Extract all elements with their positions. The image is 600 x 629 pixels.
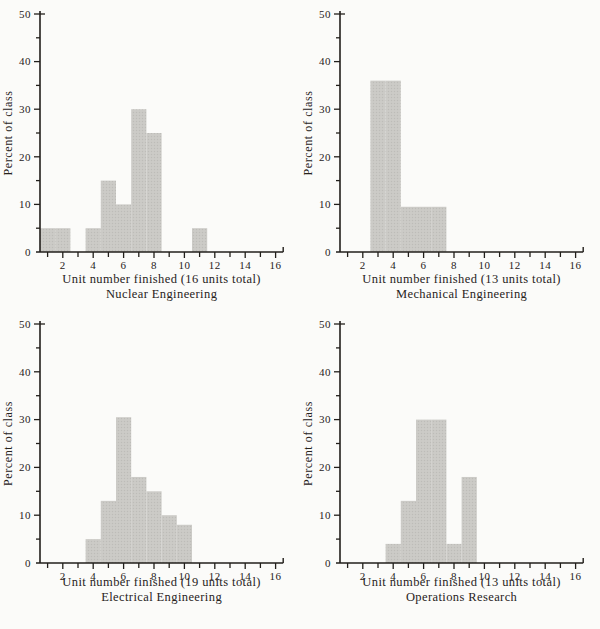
histogram-svg: 01020304050246810121416Percent of classU… — [0, 315, 300, 629]
y-tick-label: 0 — [25, 557, 31, 569]
y-tick-label: 30 — [19, 413, 31, 425]
x-tick-label: 12 — [209, 259, 221, 271]
y-tick-label: 50 — [19, 8, 31, 20]
panel-title: Mechanical Engineering — [396, 287, 528, 301]
y-tick-label: 30 — [19, 103, 31, 115]
y-tick-label: 0 — [325, 557, 331, 569]
bar-unit-6 — [416, 420, 431, 563]
y-axis-label: Percent of class — [1, 91, 15, 176]
x-tick-label: 16 — [270, 570, 282, 582]
y-tick-label: 0 — [325, 246, 331, 258]
x-tick-label: 2 — [60, 259, 66, 271]
bar-unit-6 — [416, 207, 431, 252]
bar-unit-6 — [116, 417, 131, 563]
bar-unit-7 — [131, 109, 146, 252]
y-axis-label: Percent of class — [301, 91, 315, 176]
x-tick-label: 10 — [478, 259, 490, 271]
histogram-panel-nuclear-engineering: 01020304050246810121416Percent of classU… — [0, 0, 300, 315]
x-tick-label: 14 — [539, 259, 551, 271]
x-tick-label: 6 — [121, 259, 127, 271]
x-tick-label: 8 — [151, 259, 157, 271]
y-axis-label: Percent of class — [301, 401, 315, 486]
y-tick-label: 20 — [319, 461, 331, 473]
bar-unit-4 — [386, 81, 401, 252]
panel-title: Electrical Engineering — [101, 590, 222, 604]
y-tick-label: 40 — [319, 55, 331, 67]
x-tick-label: 16 — [270, 259, 282, 271]
bar-unit-4 — [86, 228, 101, 252]
bar-unit-4 — [86, 539, 101, 563]
y-tick-label: 10 — [319, 509, 331, 521]
y-tick-label: 10 — [19, 509, 31, 521]
histogram-panel-electrical-engineering: 01020304050246810121416Percent of classU… — [0, 315, 300, 629]
x-tick-label: 8 — [451, 259, 457, 271]
y-tick-label: 10 — [319, 198, 331, 210]
bar-unit-8 — [146, 491, 161, 563]
y-axis-label: Percent of class — [1, 401, 15, 486]
y-tick-label: 10 — [19, 198, 31, 210]
x-tick-label: 4 — [390, 259, 396, 271]
x-tick-label: 14 — [239, 259, 251, 271]
x-axis-label: Unit number finished (13 units total) — [362, 272, 560, 286]
x-tick-label: 2 — [360, 259, 366, 271]
bar-unit-4 — [386, 544, 401, 563]
x-axis-label: Unit number finished (13 units total) — [362, 575, 560, 589]
y-tick-label: 40 — [319, 366, 331, 378]
bar-unit-6 — [116, 204, 131, 252]
y-tick-label: 20 — [19, 151, 31, 163]
bar-unit-5 — [101, 501, 116, 563]
x-tick-label: 6 — [421, 259, 427, 271]
histogram-svg: 01020304050246810121416Percent of classU… — [0, 0, 300, 315]
y-tick-label: 0 — [25, 246, 31, 258]
bar-unit-9 — [462, 477, 477, 563]
x-tick-label: 10 — [178, 259, 190, 271]
bar-unit-7 — [431, 207, 446, 252]
bar-unit-1 — [40, 228, 55, 252]
y-tick-label: 30 — [319, 103, 331, 115]
bar-unit-5 — [401, 207, 416, 252]
x-tick-label: 16 — [570, 259, 582, 271]
x-axis-label: Unit number finished (16 units total) — [62, 272, 260, 286]
bar-unit-10 — [177, 525, 192, 563]
y-tick-label: 20 — [319, 151, 331, 163]
histogram-svg: 01020304050246810121416Percent of classU… — [300, 0, 600, 315]
x-tick-label: 12 — [509, 259, 521, 271]
panel-title: Operations Research — [406, 590, 518, 604]
bar-unit-8 — [446, 544, 461, 563]
histogram-panel-mechanical-engineering: 01020304050246810121416Percent of classU… — [300, 0, 600, 315]
histogram-grid-page: 01020304050246810121416Percent of classU… — [0, 0, 600, 629]
bar-unit-8 — [146, 133, 161, 252]
bar-unit-11 — [192, 228, 207, 252]
x-tick-label: 16 — [570, 570, 582, 582]
bar-unit-5 — [101, 181, 116, 252]
bar-unit-2 — [55, 228, 70, 252]
histogram-svg: 01020304050246810121416Percent of classU… — [300, 315, 600, 629]
y-tick-label: 50 — [19, 318, 31, 330]
x-tick-label: 4 — [90, 259, 96, 271]
x-axis-label: Unit number finished (19 units total) — [62, 575, 260, 589]
bar-unit-9 — [162, 515, 177, 563]
bar-unit-5 — [401, 501, 416, 563]
bar-unit-3 — [370, 81, 385, 252]
histogram-panel-operations-research: 01020304050246810121416Percent of classU… — [300, 315, 600, 629]
y-tick-label: 20 — [19, 461, 31, 473]
panel-title: Nuclear Engineering — [106, 287, 218, 301]
y-tick-label: 40 — [19, 55, 31, 67]
bar-unit-7 — [431, 420, 446, 563]
bar-unit-7 — [131, 477, 146, 563]
y-tick-label: 30 — [319, 413, 331, 425]
y-tick-label: 50 — [319, 8, 331, 20]
y-tick-label: 50 — [319, 318, 331, 330]
y-tick-label: 40 — [19, 366, 31, 378]
